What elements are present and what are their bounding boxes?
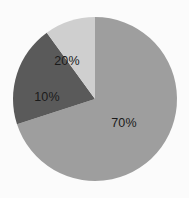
pie-slice-label-10: 10% (26, 91, 68, 104)
pie-slice-label-20: 20% (46, 55, 88, 68)
pie-slice-label-70: 70% (103, 117, 145, 130)
pie-chart: 70% 20% 10% (0, 0, 189, 198)
